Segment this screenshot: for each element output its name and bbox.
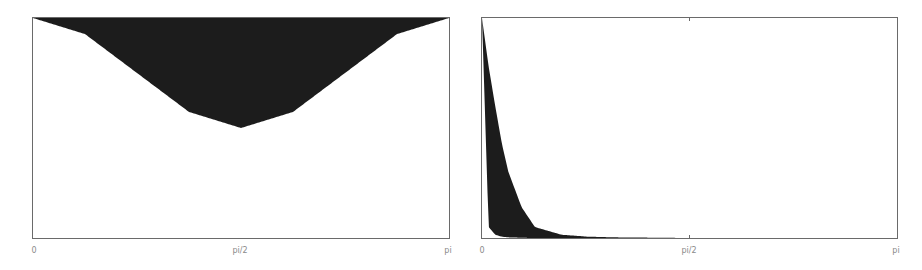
right-plot-area — [0, 0, 922, 270]
right-x-tick-pi-half: pi/2 — [681, 246, 696, 255]
right-plot-frame — [482, 18, 898, 239]
right-x-tick-pi: pi — [892, 246, 899, 255]
right-x-tick-0: 0 — [479, 246, 484, 255]
right-filled-region — [482, 18, 897, 238]
right-chart: 0 pi/2 pi — [0, 0, 922, 270]
